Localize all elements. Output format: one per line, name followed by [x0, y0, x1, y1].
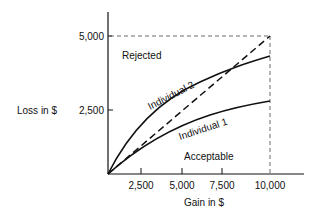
acceptable-region-label: Acceptable — [184, 151, 234, 162]
y-axis-label: Loss in $ — [17, 105, 57, 116]
x-axis-label: Gain in $ — [184, 197, 224, 208]
x-tick-label-10000: 10,000 — [255, 180, 286, 191]
rejected-region-label: Rejected — [122, 50, 161, 61]
y-tick-label-5000: 5,000 — [79, 31, 104, 42]
chart: 5,000 2,500 Loss in $ 2,500 5,000 7,500 … — [0, 0, 321, 218]
x-tick-label-5000: 5,000 — [169, 180, 194, 191]
individual-1-label: Individual 1 — [177, 116, 229, 142]
individual-2-label: Individual 2 — [146, 79, 196, 112]
x-tick-label-7500: 7,500 — [209, 180, 234, 191]
x-tick-label-2500: 2,500 — [128, 180, 153, 191]
y-tick-label-2500: 2,500 — [79, 105, 104, 116]
